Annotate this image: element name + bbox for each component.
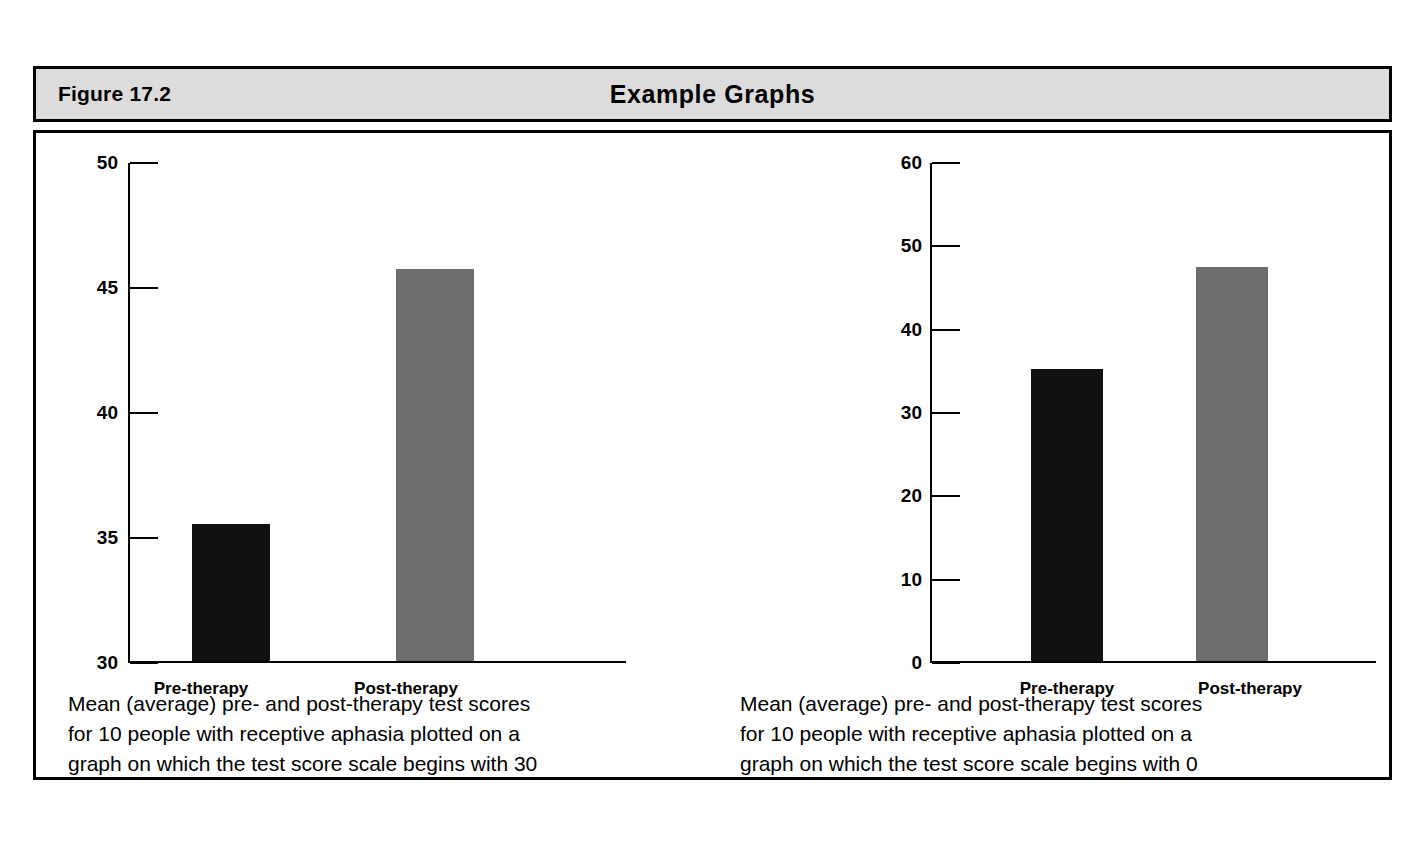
figure-container: Figure 17.2 Example Graphs 3035404550 Pr…: [33, 66, 1392, 780]
y-axis-tick: [932, 162, 960, 164]
y-axis-tick-label: 30: [66, 652, 118, 674]
y-axis-tick-label: 60: [872, 152, 922, 174]
y-axis-tick: [130, 662, 158, 664]
caption-right: Mean (average) pre- and post-therapy tes…: [740, 689, 1340, 779]
y-axis-tick: [130, 537, 158, 539]
y-axis-tick: [932, 245, 960, 247]
y-axis-tick-label: 35: [66, 527, 118, 549]
caption-left: Mean (average) pre- and post-therapy tes…: [68, 689, 668, 779]
y-axis-tick-label: 50: [872, 235, 922, 257]
bar-chart-right: 0102030405060: [886, 163, 1376, 663]
chart-panel-right: 0102030405060 Pre-therapyPost-therapy Me…: [716, 133, 1392, 777]
y-axis-tick: [932, 412, 960, 414]
figure-header-bar: Figure 17.2 Example Graphs: [33, 66, 1392, 122]
y-axis-tick: [130, 162, 158, 164]
y-axis-tick-label: 45: [66, 277, 118, 299]
y-axis-tick-label: 20: [872, 485, 922, 507]
y-axis-tick: [932, 662, 960, 664]
figure-title: Example Graphs: [36, 80, 1389, 109]
y-axis-tick-label: 40: [66, 402, 118, 424]
y-axis-tick: [932, 329, 960, 331]
x-axis-line-left: [128, 661, 626, 663]
figure-body: 3035404550 Pre-therapyPost-therapy Mean …: [33, 130, 1392, 780]
y-axis-tick-label: 40: [872, 319, 922, 341]
y-axis-tick-label: 50: [66, 152, 118, 174]
bar-pre-therapy: [1031, 369, 1103, 661]
bar-post-therapy: [396, 269, 474, 662]
y-axis-tick: [130, 412, 158, 414]
bar-pre-therapy: [192, 524, 270, 662]
x-axis-line-right: [930, 661, 1376, 663]
y-axis-tick: [130, 287, 158, 289]
y-axis-tick-label: 10: [872, 569, 922, 591]
y-axis-tick-label: 0: [872, 652, 922, 674]
y-axis-tick: [932, 579, 960, 581]
y-axis-tick: [932, 495, 960, 497]
bar-post-therapy: [1196, 267, 1268, 661]
chart-panel-left: 3035404550 Pre-therapyPost-therapy Mean …: [36, 133, 716, 777]
y-axis-tick-label: 30: [872, 402, 922, 424]
bar-chart-left: 3035404550: [66, 163, 626, 663]
